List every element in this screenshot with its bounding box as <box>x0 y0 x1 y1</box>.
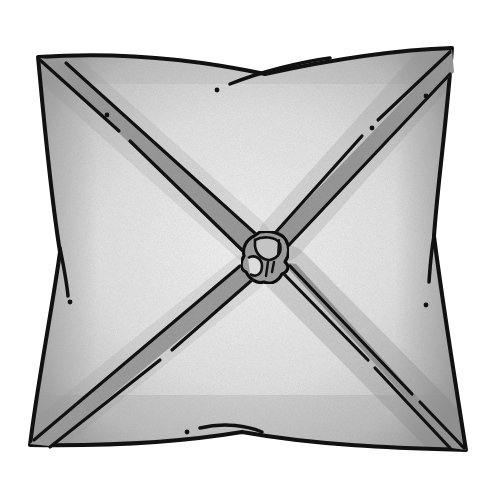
stitch-dot <box>370 126 375 131</box>
center-knot <box>241 231 288 283</box>
stitch-dot <box>424 94 429 99</box>
stitch-dot <box>424 303 429 308</box>
stitch-dot <box>68 300 73 305</box>
stitch-dot <box>185 430 190 435</box>
illustration-stage <box>0 0 495 485</box>
stitch-dot <box>105 113 110 118</box>
stitch-dot <box>215 88 220 93</box>
pillow-illustration <box>0 0 495 485</box>
